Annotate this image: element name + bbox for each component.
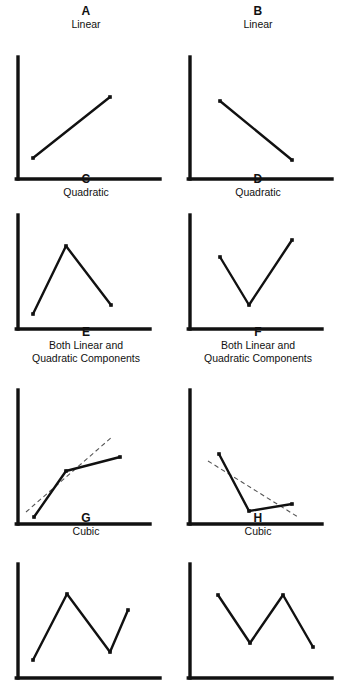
panel-g-caption: Cubic [0, 525, 172, 538]
panel-h: H Cubic [172, 511, 344, 684]
data-point-marker [108, 95, 112, 99]
panel-c: C Quadratic [0, 172, 172, 341]
panel-d-caption: Quadratic [172, 186, 344, 199]
trend-dashed-line [26, 437, 112, 512]
panel-c-plot [0, 199, 172, 341]
panel-g-svg [0, 538, 172, 684]
panel-a-header: A Linear [0, 4, 172, 31]
panel-f: F Both Linear and Quadratic Components [172, 325, 344, 536]
panel-b-letter: B [172, 4, 344, 18]
data-point-marker [217, 452, 221, 456]
panel-d-letter: D [172, 172, 344, 186]
panel-a-svg [0, 31, 172, 191]
panel-f-letter: F [172, 325, 344, 339]
panel-h-plot [172, 538, 344, 684]
data-segment [218, 595, 250, 643]
data-point-marker [290, 502, 294, 506]
data-segment [33, 594, 67, 660]
data-point-marker [216, 593, 220, 597]
data-segment [219, 454, 249, 511]
panel-e-letter: E [0, 325, 172, 339]
data-point-marker [126, 608, 130, 612]
data-point-marker [109, 303, 113, 307]
panel-e-caption: Both Linear and Quadratic Components [0, 339, 172, 364]
panel-b-svg [172, 31, 344, 191]
panel-g-header: G Cubic [0, 511, 172, 538]
data-point-marker [290, 158, 294, 162]
panel-c-header: C Quadratic [0, 172, 172, 199]
panel-a: A Linear [0, 4, 172, 191]
panel-g-letter: G [0, 511, 172, 525]
panel-b-plot [172, 31, 344, 191]
data-point-marker [64, 244, 68, 248]
data-point-marker [31, 658, 35, 662]
data-segment [250, 595, 283, 643]
panel-g: G Cubic [0, 511, 172, 684]
data-point-marker [290, 238, 294, 242]
panel-e-header: E Both Linear and Quadratic Components [0, 325, 172, 364]
panel-h-caption: Cubic [172, 525, 344, 538]
data-point-marker [65, 592, 69, 596]
panel-f-header: F Both Linear and Quadratic Components [172, 325, 344, 364]
panel-c-letter: C [0, 172, 172, 186]
panel-d-svg [172, 199, 344, 341]
data-segment [110, 610, 128, 652]
data-segment [220, 257, 249, 305]
data-point-marker [311, 645, 315, 649]
panel-d: D Quadratic [172, 172, 344, 341]
data-point-marker [281, 593, 285, 597]
panel-e: E Both Linear and Quadratic Components [0, 325, 172, 536]
panel-f-caption: Both Linear and Quadratic Components [172, 339, 344, 364]
panel-g-plot [0, 538, 172, 684]
data-segment [67, 594, 110, 652]
panel-b-header: B Linear [172, 4, 344, 31]
data-point-marker [218, 255, 222, 259]
data-segment [249, 240, 292, 305]
data-point-marker [218, 99, 222, 103]
data-point-marker [247, 303, 251, 307]
panel-h-header: H Cubic [172, 511, 344, 538]
data-point-marker [31, 312, 35, 316]
data-segment [220, 101, 292, 160]
data-segment [33, 97, 110, 158]
panel-a-caption: Linear [0, 18, 172, 31]
panel-d-header: D Quadratic [172, 172, 344, 199]
panel-b: B Linear [172, 4, 344, 191]
panel-b-caption: Linear [172, 18, 344, 31]
data-segment [33, 246, 66, 314]
data-point-marker [118, 455, 122, 459]
panel-a-letter: A [0, 4, 172, 18]
data-point-marker [248, 641, 252, 645]
panel-d-plot [172, 199, 344, 341]
data-point-marker [64, 469, 68, 473]
data-point-marker [31, 156, 35, 160]
trend-dashed-line [208, 461, 298, 517]
panel-a-plot [0, 31, 172, 191]
data-segment [66, 246, 111, 305]
data-segment [283, 595, 313, 647]
data-segment [66, 457, 120, 471]
panel-h-letter: H [172, 511, 344, 525]
panel-h-svg [172, 538, 344, 684]
panel-c-caption: Quadratic [0, 186, 172, 199]
data-point-marker [108, 650, 112, 654]
panel-c-svg [0, 199, 172, 341]
data-segment [249, 504, 292, 511]
